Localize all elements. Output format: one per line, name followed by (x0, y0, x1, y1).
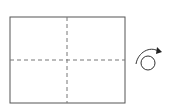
turn-over-icon (136, 47, 162, 70)
fold-diagram (0, 0, 173, 107)
